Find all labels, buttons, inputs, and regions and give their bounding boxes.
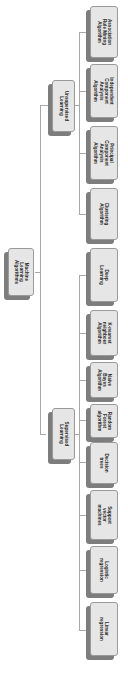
leaf-support-vector-machines: Support vector machines (90, 490, 118, 540)
unsupervised-to-bus (75, 105, 80, 106)
leaf-principal-component-analysis: Principal Component Analysis Algorithm (90, 126, 118, 180)
leaf-label: Random Forest algorithm (96, 411, 112, 432)
leaf-label: Deep Learning (99, 265, 109, 284)
supervised-to-bus (75, 434, 80, 435)
leaf-clustering: Clustering Algorithm (90, 188, 118, 240)
root-to-trunk (35, 272, 41, 273)
leaf-label: K-nearest neighbour Algorithm (96, 322, 112, 344)
leaf-independent-component-analysis: Independent Component Analysis Algorithm (90, 64, 118, 118)
leaf-linear-regression: Linear regression (90, 602, 118, 656)
leaf-label: Logistic regression (99, 558, 109, 582)
supervised-learning-label: Supervised Learning (58, 422, 68, 447)
leaf-label: Association Rule Mining Algorithm (96, 19, 112, 45)
root-node: Machine Learning Algorithms (8, 248, 34, 296)
leaf-naive-bayes: Naïve Bayes Algorithm (90, 362, 118, 398)
unsupervised-bus (79, 32, 80, 214)
leaf-association-rule-mining: Association Rule Mining Algorithm (90, 6, 118, 58)
root-trunk (40, 105, 41, 435)
leaf-label: Principal Component Analysis Algorithm (94, 140, 115, 166)
leaf-deep-learning: Deep Learning (90, 248, 118, 302)
supervised-bus (79, 275, 80, 630)
leaf-label: Linear regression (99, 617, 109, 641)
trunk-to-supervised (40, 434, 46, 435)
leaf-random-forest: Random Forest algorithm (90, 404, 118, 438)
leaf-k-nearest-neighbour: K-nearest neighbour Algorithm (90, 310, 118, 356)
leaf-label: Independent Component Analysis Algorithm (94, 77, 115, 104)
leaf-label: Clustering Algorithm (99, 203, 109, 226)
leaf-label: Naïve Bayes Algorithm (96, 369, 112, 391)
supervised-learning-node: Supervised Learning (52, 408, 75, 460)
leaf-logistic-regression: Logistic regression (90, 546, 118, 594)
unsupervised-learning-label: Unsupervised Learning (58, 91, 68, 121)
unsupervised-learning-node: Unsupervised Learning (52, 80, 75, 132)
leaf-decision-trees: Decision trees (90, 442, 118, 484)
root-label: Machine Learning Algorithms (13, 260, 29, 284)
leaf-label: Support vector machines (96, 504, 112, 525)
leaf-label: Decision trees (99, 453, 109, 472)
